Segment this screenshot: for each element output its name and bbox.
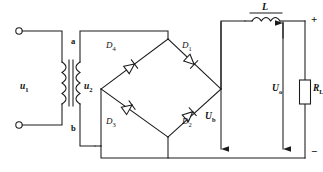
polarity-minus-label: − <box>311 146 317 157</box>
primary-voltage-label: u1 <box>20 82 29 93</box>
bridge-rectifier <box>101 39 221 137</box>
diode-d2-label: D2 <box>182 117 192 128</box>
diode-d4-symbol <box>123 60 137 74</box>
branch-d3 <box>101 89 168 137</box>
inductor-l-symbol <box>245 13 305 21</box>
voltage-uo-label: Uo <box>272 84 282 95</box>
bridge-ac-input-wiring <box>95 89 101 146</box>
transformer <box>62 60 80 106</box>
circuit-diagram: u1 u2 a b D4 D1 D3 D2 L RL Ub Uo + − <box>0 0 323 172</box>
polarity-plus-label: + <box>311 14 317 25</box>
inductor-l-label: L <box>262 2 268 12</box>
transformer-tap-a-label: a <box>71 37 75 46</box>
diode-d1-label: D1 <box>182 41 192 52</box>
resistor-rl-symbol <box>300 80 311 104</box>
voltage-ub-label: Ub <box>205 112 216 123</box>
transformer-tap-b-label: b <box>71 124 76 133</box>
diode-d3-label: D3 <box>106 117 116 128</box>
primary-wiring <box>22 31 62 125</box>
resistor-rl-label: RL <box>313 84 323 95</box>
input-terminals <box>16 28 22 128</box>
diode-d4-label: D4 <box>106 41 116 52</box>
secondary-voltage-label: u2 <box>84 82 93 93</box>
diode-d3-symbol <box>121 101 135 115</box>
